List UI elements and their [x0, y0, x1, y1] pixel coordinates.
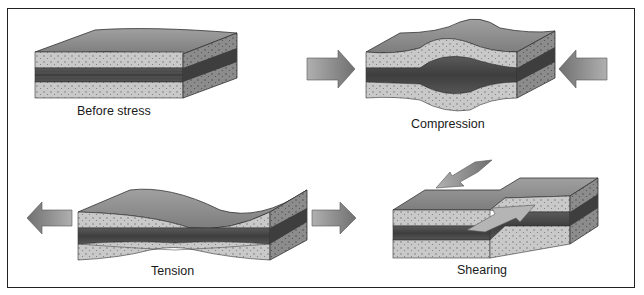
before-stress-label: Before stress: [77, 104, 151, 118]
before-stress-block: [35, 29, 237, 98]
shearing-label: Shearing: [457, 263, 507, 277]
compression-block: [366, 19, 555, 111]
shearing-left-arrow-icon: [322, 202, 357, 234]
compression-right-arrow-icon: [559, 50, 607, 88]
stress-diagram: [0, 0, 644, 295]
shearing-down-arrow-icon: [436, 160, 492, 188]
tension-left-arrow-icon: [27, 202, 72, 234]
compression-left-arrow-icon: [307, 50, 355, 88]
compression-label: Compression: [411, 117, 485, 131]
tension-block: [78, 189, 307, 260]
tension-label: Tension: [151, 264, 194, 278]
